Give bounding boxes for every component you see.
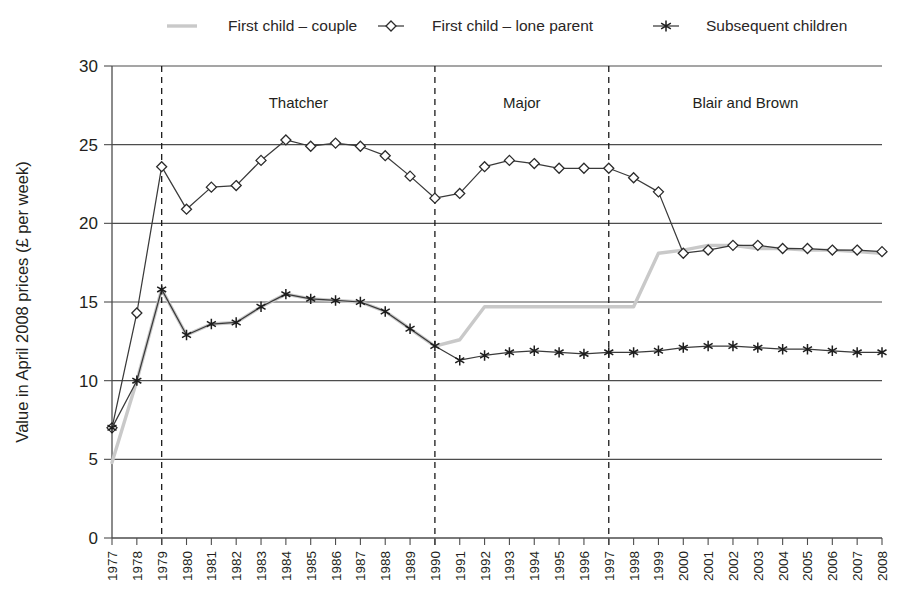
x-tick-label: 1994 (527, 551, 542, 582)
data-point-marker (802, 244, 812, 254)
x-tick-label: 1986 (329, 551, 344, 581)
data-point-marker (629, 173, 639, 183)
svg-text:15: 15 (79, 293, 98, 312)
legend-label: First child – couple (228, 17, 357, 34)
legend-item: First child – couple (167, 17, 357, 34)
data-point-marker (529, 159, 539, 169)
era-label: Thatcher (269, 94, 328, 111)
x-tick-label: 1984 (279, 551, 294, 582)
line-chart-figure: First child – coupleFirst child – lone p… (0, 0, 915, 606)
x-tick-label: 2006 (825, 551, 840, 581)
legend-label: First child – lone parent (432, 17, 594, 34)
x-tick-label: 1997 (602, 551, 617, 581)
x-tick-label: 2004 (776, 551, 791, 582)
series-line (112, 140, 882, 428)
data-point-marker (827, 245, 837, 255)
x-tick-label: 2005 (800, 551, 815, 581)
gridlines (112, 66, 882, 538)
data-point-marker (653, 187, 663, 197)
data-point-marker (132, 308, 142, 318)
x-tick-label: 2001 (701, 551, 716, 581)
data-point-marker (852, 245, 862, 255)
data-point-marker (604, 163, 614, 173)
x-tick-label: 1996 (577, 551, 592, 581)
data-point-marker (157, 162, 167, 172)
svg-text:10: 10 (79, 372, 98, 391)
x-tick-label: 2007 (850, 551, 865, 581)
x-tick-label: 1977 (105, 551, 120, 581)
x-tick-label: 2003 (751, 551, 766, 581)
x-tick-label: 1982 (229, 551, 244, 581)
data-point-marker (728, 240, 738, 250)
data-point-marker (355, 141, 365, 151)
chart-container: First child – coupleFirst child – lone p… (0, 0, 915, 606)
svg-text:0: 0 (89, 529, 98, 548)
legend-swatch-diamond-icon (386, 21, 396, 31)
data-point-marker (579, 163, 589, 173)
x-tick-label: 2000 (676, 551, 691, 581)
data-point-marker (331, 138, 341, 148)
data-series (107, 135, 887, 463)
legend-item: Subsequent children (653, 17, 847, 34)
series-line (112, 289, 882, 427)
y-axis-ticks: 051015202530 (79, 57, 112, 548)
data-point-marker (306, 141, 316, 151)
x-tick-label: 1979 (155, 551, 170, 581)
x-tick-label: 1985 (304, 551, 319, 581)
chart-legend: First child – coupleFirst child – lone p… (167, 17, 847, 34)
era-label: Major (503, 94, 541, 111)
x-tick-label: 1980 (180, 551, 195, 581)
x-tick-label: 1993 (502, 551, 517, 581)
x-axis-ticks: 1977197819791980198119821983198419851986… (105, 538, 890, 581)
era-label: Blair and Brown (692, 94, 798, 111)
data-point-marker (554, 163, 564, 173)
y-axis-label: Value in April 2008 prices (£ per week) (13, 161, 31, 442)
y-axis-title: Value in April 2008 prices (£ per week) (13, 161, 31, 442)
svg-text:5: 5 (89, 450, 98, 469)
x-tick-label: 1983 (254, 551, 269, 581)
svg-text:30: 30 (79, 57, 98, 76)
data-point-marker (778, 244, 788, 254)
x-tick-label: 1998 (627, 551, 642, 581)
x-tick-label: 1987 (353, 551, 368, 581)
x-tick-label: 1995 (552, 551, 567, 581)
svg-text:25: 25 (79, 136, 98, 155)
legend-item: First child – lone parent (378, 17, 594, 34)
x-tick-label: 1981 (204, 551, 219, 581)
svg-text:20: 20 (79, 214, 98, 233)
x-tick-label: 1992 (478, 551, 493, 581)
data-point-marker (877, 247, 887, 257)
x-tick-label: 2008 (875, 551, 890, 581)
x-tick-label: 2002 (726, 551, 741, 581)
data-point-marker (504, 155, 514, 165)
x-tick-label: 1989 (403, 551, 418, 581)
x-tick-label: 1991 (453, 551, 468, 581)
x-tick-label: 1988 (378, 551, 393, 581)
x-tick-label: 1978 (130, 551, 145, 581)
x-tick-label: 1990 (428, 551, 443, 581)
x-tick-label: 1999 (651, 551, 666, 581)
legend-label: Subsequent children (706, 17, 847, 34)
era-labels: ThatcherMajorBlair and Brown (269, 94, 799, 111)
